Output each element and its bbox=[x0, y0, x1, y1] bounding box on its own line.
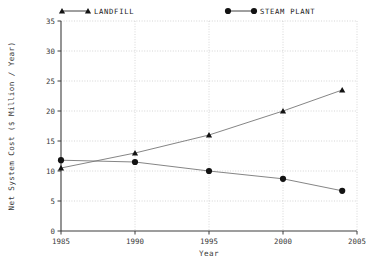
data-point-steam-plant bbox=[280, 176, 286, 182]
y-tick-label: 20 bbox=[46, 107, 55, 116]
x-tick-label: 1985 bbox=[52, 237, 70, 246]
y-tick-label: 25 bbox=[46, 77, 55, 86]
data-point-steam-plant bbox=[132, 159, 138, 165]
y-axis-title: Net System Cost ($ Million / Year) bbox=[7, 41, 16, 210]
line-chart: 0510152025303519851990199520002005YearNe… bbox=[0, 0, 372, 270]
series-line-landfill bbox=[61, 90, 342, 168]
y-tick-label: 15 bbox=[46, 137, 55, 146]
x-tick-label: 1990 bbox=[126, 237, 144, 246]
data-point-landfill bbox=[339, 87, 345, 93]
y-tick-label: 5 bbox=[51, 197, 55, 206]
data-point-steam-plant bbox=[206, 168, 212, 174]
data-point-steam-plant bbox=[339, 188, 345, 194]
y-tick-label: 0 bbox=[51, 227, 55, 236]
y-tick-label: 30 bbox=[46, 47, 55, 56]
circle-marker-icon bbox=[251, 8, 257, 14]
chart-container: 0510152025303519851990199520002005YearNe… bbox=[0, 0, 372, 270]
x-tick-label: 1995 bbox=[200, 237, 218, 246]
x-tick-label: 2005 bbox=[348, 237, 366, 246]
legend-label-1: STEAM PLANT bbox=[260, 7, 315, 16]
circle-marker-icon bbox=[225, 8, 231, 14]
series-line-steam-plant bbox=[61, 160, 342, 191]
data-point-steam-plant bbox=[58, 157, 64, 163]
y-tick-label: 10 bbox=[46, 167, 55, 176]
x-axis-title: Year bbox=[199, 249, 219, 258]
x-tick-label: 2000 bbox=[274, 237, 292, 246]
legend-label-0: LANDFILL bbox=[94, 7, 134, 16]
y-tick-label: 35 bbox=[46, 17, 55, 26]
